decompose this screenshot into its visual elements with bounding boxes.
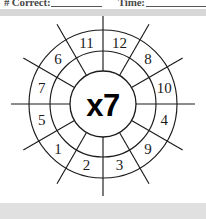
wheel-graphic: 128104932157611 x7 <box>0 16 206 202</box>
wheel-sector-number: 1 <box>54 141 62 157</box>
wheel-sector-number: 10 <box>157 80 172 96</box>
worksheet-header: # Correct: Time: <box>0 0 206 16</box>
wheel-sector-number: 3 <box>116 157 124 173</box>
wheel-sector-number: 7 <box>38 80 46 96</box>
wheel-spoke <box>23 121 74 151</box>
wheel-sector-number: 8 <box>144 51 152 67</box>
wheel-sector-number: 11 <box>79 35 93 51</box>
correct-count-label: # Correct: <box>4 0 50 8</box>
wheel-spoke <box>132 121 183 151</box>
wheel-sector-number: 2 <box>83 157 91 173</box>
wheel-sector-number: 4 <box>161 112 169 128</box>
center-multiplier-label: x7 <box>86 88 119 123</box>
correct-count-blank[interactable] <box>51 0 102 7</box>
wheel-sector-number: 6 <box>54 51 62 67</box>
footer-band <box>0 203 206 219</box>
wheel-sector-number: 5 <box>38 112 46 128</box>
time-label: Time: <box>118 0 145 8</box>
time-blank[interactable] <box>146 0 206 7</box>
wheel-sector-number: 12 <box>112 35 127 51</box>
multiplication-wheel: 128104932157611 x7 <box>0 16 206 202</box>
wheel-spoke <box>23 58 74 88</box>
wheel-sector-number: 9 <box>144 141 152 157</box>
header-separator-band <box>0 9 206 16</box>
